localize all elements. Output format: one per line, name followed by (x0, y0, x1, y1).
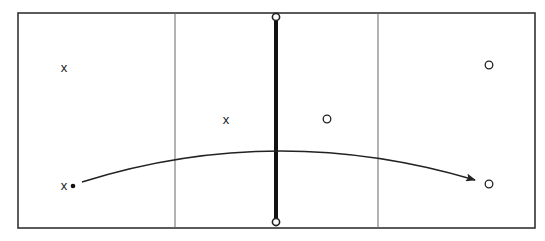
boundary-endpoint-top-icon (272, 13, 279, 20)
marker-o-icon (485, 180, 493, 188)
diagram-canvas: x x x (0, 0, 545, 241)
trajectory-arrow (82, 151, 475, 182)
marker-x: x (61, 60, 68, 75)
marker-o-icon (323, 115, 331, 123)
markers: x x x (61, 60, 230, 193)
marker-o-icon (485, 61, 493, 69)
marker-x: x (61, 178, 68, 193)
boundary-endpoint-bottom-icon (272, 218, 279, 225)
marker-x: x (223, 112, 230, 127)
start-point-dot-icon (71, 184, 76, 189)
